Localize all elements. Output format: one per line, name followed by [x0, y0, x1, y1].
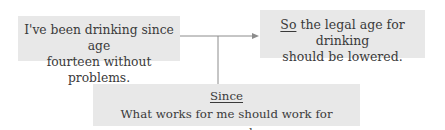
premise-line-2: fourteen without problems.	[18, 54, 180, 86]
conclusion-line-1: So the legal age for drinking	[260, 17, 425, 49]
arrowhead-icon	[252, 33, 259, 39]
warrant-text: What works for me should work for everyo…	[93, 105, 360, 130]
conclusion-box: So the legal age for drinking should be …	[260, 10, 425, 58]
premise-box: I've been drinking since age fourteen wi…	[18, 16, 180, 61]
conclusion-text-1: the legal age for drinking	[296, 17, 404, 48]
premise-line-1: I've been drinking since age	[18, 22, 180, 54]
conclusion-line-2: should be lowered.	[260, 49, 425, 65]
warrant-box: Since What works for me should work for …	[93, 84, 360, 126]
warrant-indicator: Since	[93, 87, 360, 105]
conclusion-indicator: So	[280, 17, 296, 32]
